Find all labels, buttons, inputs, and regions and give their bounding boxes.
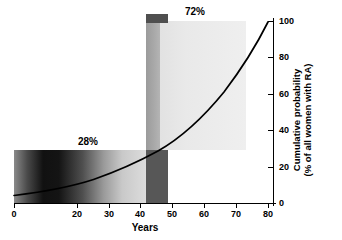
divider-bar-cap-top (146, 14, 168, 23)
x-tick-label-70: 70 (231, 209, 241, 219)
x-axis-title: Years (132, 222, 159, 233)
y-tick-40 (268, 130, 274, 131)
annotation-72-percent: 72% (185, 6, 205, 17)
x-tick-30 (109, 204, 110, 208)
x-tick-40 (140, 204, 141, 208)
x-tick-60 (204, 204, 205, 208)
y-tick-20 (268, 167, 274, 168)
y-tick-60 (268, 94, 274, 95)
x-tick-label-30: 30 (104, 209, 114, 219)
y-tick-label-100: 100 (279, 16, 294, 26)
y-tick-label-40: 40 (279, 125, 289, 135)
x-tick-label-50: 50 (167, 209, 177, 219)
x-tick-label-40: 40 (135, 209, 145, 219)
y-tick-80 (268, 57, 274, 58)
x-tick-0 (14, 204, 15, 208)
y-tick-label-60: 60 (279, 89, 289, 99)
x-tick-label-20: 20 (72, 209, 82, 219)
y-tick-100 (268, 21, 274, 22)
x-tick-label-60: 60 (199, 209, 209, 219)
chart-figure: 28% 72% 0 20 30 40 50 60 70 80 0 20 40 6… (0, 0, 342, 240)
y-tick-label-20: 20 (279, 162, 289, 172)
x-tick-50 (172, 204, 173, 208)
y-tick-0 (268, 203, 274, 204)
y-axis-title-line1: Cumulative probability (291, 64, 302, 177)
y-axis-title-line2: (% of all women with RA) (302, 64, 313, 177)
x-tick-80 (268, 204, 269, 208)
x-tick-20 (77, 204, 78, 208)
annotation-28-percent: 28% (78, 136, 98, 147)
y-tick-label-80: 80 (279, 52, 289, 62)
x-tick-70 (236, 204, 237, 208)
divider-bar-foot (146, 150, 168, 203)
region-lower-28-percent-gradient (14, 150, 146, 203)
x-tick-label-0: 0 (11, 209, 16, 219)
y-tick-label-0: 0 (279, 198, 284, 208)
y-axis-line (273, 18, 274, 206)
x-tick-label-80: 80 (263, 209, 273, 219)
y-axis-title: Cumulative probability (% of all women w… (291, 64, 313, 177)
region-upper-72-percent (160, 21, 246, 150)
